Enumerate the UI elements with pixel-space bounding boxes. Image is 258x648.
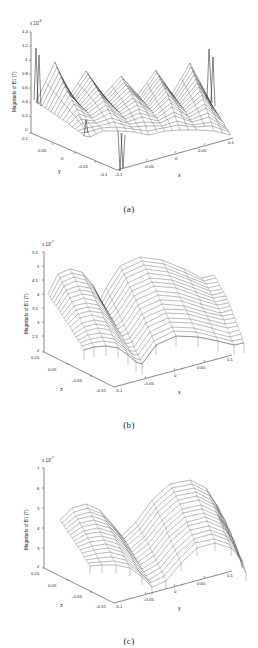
z2-tick-b-3: -0.15 <box>96 388 106 393</box>
y-tick-c-2: 0 <box>174 589 176 594</box>
z-tick-a-1: 0.2 <box>22 113 28 118</box>
z2-tick-c-0: 0.15 <box>31 571 39 576</box>
z2-tick-c-2: -0.05 <box>72 594 82 599</box>
x-tick-a-2: 0 <box>175 156 177 161</box>
z2-tick-c-1: 0.05 <box>48 583 56 588</box>
x-tick-a-0: -0.1 <box>115 172 122 177</box>
axis-multiplier-c: x 10-7 <box>42 456 54 463</box>
z-tick-b-7: 5.5 <box>32 250 38 255</box>
z-axis-name-b: z <box>60 386 63 392</box>
axis-tick-marks-c <box>42 468 205 594</box>
z2-tick-b-0: 0.15 <box>31 355 39 360</box>
y-tick-a-4: -0.1 <box>100 172 107 177</box>
mesh-lines-b-u <box>48 257 244 364</box>
axis-multiplier-a-base: x 10 <box>30 21 39 26</box>
z-axis-name-c: z <box>60 602 63 608</box>
z-tick-b-5: 4.5 <box>32 278 38 283</box>
z-tick-c-3: 5 <box>37 506 39 511</box>
y-axis-name-c: y <box>178 605 181 611</box>
mesh-lines-b-v <box>48 257 244 364</box>
z-tick-c-4: 6 <box>37 486 39 491</box>
z-tick-c-2: 4 <box>37 526 39 531</box>
mesh-lines-c-u <box>60 480 246 587</box>
x-tick-b-3: 0.05 <box>197 365 205 370</box>
panel-caption-c: (c) <box>0 636 258 646</box>
z-tick-b-3: 3.5 <box>32 306 38 311</box>
z2-tick-c-3: -0.15 <box>96 604 106 609</box>
z-tick-a-2: 0.4 <box>22 99 28 104</box>
panel-c: x 10-7 Magnitude of B1 (T) 7 6 5 4 3 2 0… <box>0 432 258 648</box>
z-tick-b-2: 3 <box>37 320 39 325</box>
y-tick-c-1: -0.05 <box>144 597 154 602</box>
x-tick-b-2: 0 <box>174 373 176 378</box>
x-axis-name-b: x <box>178 389 181 395</box>
mesh-lines-a-u <box>36 62 230 137</box>
y-tick-a-2: 0 <box>61 156 63 161</box>
mesh-lines-a-v <box>36 62 230 137</box>
z-tick-c-1: 3 <box>37 546 39 551</box>
axis-multiplier-b-exp: -7 <box>51 240 54 244</box>
y-tick-a-1: 0.05 <box>38 148 46 153</box>
panel-b: x 10-7 Magnitude of B1 (T) 5.5 5 4.5 4 3… <box>0 216 258 432</box>
z2-tick-b-1: 0.05 <box>48 367 56 372</box>
z-tick-b-0: 2 <box>37 348 39 353</box>
z-tick-a-3: 0.6 <box>22 85 28 90</box>
y-tick-a-3: -0.05 <box>78 164 88 169</box>
axis-multiplier-b-base: x 10 <box>42 242 51 247</box>
plot-a: x 10-6 Magnitude of B1 (T) 1.4 1.2 1 0.8… <box>0 0 258 190</box>
z-tick-a-0: 0 <box>25 127 27 132</box>
z2-tick-b-2: -0.05 <box>72 378 82 383</box>
x-tick-b-4: 0.1 <box>227 357 233 362</box>
y-tick-c-4: 0.1 <box>227 573 233 578</box>
panel-caption-a: (a) <box>0 204 258 214</box>
z-tick-a-6: 1.2 <box>22 43 28 48</box>
panel-a: x 10-6 Magnitude of B1 (T) 1.4 1.2 1 0.8… <box>0 0 258 216</box>
z-tick-b-1: 2.5 <box>32 334 38 339</box>
axis-multiplier-a-exp: -6 <box>39 19 42 23</box>
panel-caption-b: (b) <box>0 420 258 430</box>
y-tick-c-3: 0.05 <box>197 581 205 586</box>
z-tick-c-0: 2 <box>37 564 39 569</box>
axis-multiplier-c-base: x 10 <box>42 458 51 463</box>
axis-multiplier-a: x 10-6 <box>30 19 42 26</box>
mesh-lines-c-v <box>60 480 246 587</box>
x-tick-a-4: 0.1 <box>228 140 234 145</box>
plot-b: x 10-7 Magnitude of B1 (T) 5.5 5 4.5 4 3… <box>0 216 258 406</box>
y-tick-c-0: -0.1 <box>115 604 122 609</box>
x-tick-a-1: -0.05 <box>144 164 154 169</box>
z-tick-a-7: 1.4 <box>22 29 28 34</box>
x-axis-name-a: x <box>178 172 181 178</box>
x-tick-b-0: -0.1 <box>115 388 122 393</box>
surface-mesh-b <box>0 216 258 406</box>
x-tick-b-1: -0.05 <box>144 381 154 386</box>
axis-multiplier-c-exp: -7 <box>51 456 54 460</box>
axis-multiplier-b: x 10-7 <box>42 240 54 247</box>
figure-sheet: x 10-6 Magnitude of B1 (T) 1.4 1.2 1 0.8… <box>0 0 258 648</box>
mesh-skirt-c <box>90 543 246 595</box>
z-axis-title-b: Magnitude of B1 (T) <box>24 293 29 334</box>
plot-c: x 10-7 Magnitude of B1 (T) 7 6 5 4 3 2 0… <box>0 432 258 622</box>
z-tick-a-5: 1 <box>25 57 27 62</box>
z-axis-title-c: Magnitude of B1 (T) <box>24 509 29 550</box>
z-axis-title-a: Magnitude of B1 (T) <box>12 71 17 112</box>
z-tick-a-4: 0.8 <box>22 71 28 76</box>
y-tick-a-0: 0.1 <box>22 136 28 141</box>
z-tick-b-6: 5 <box>37 264 39 269</box>
y-axis-name-a: y <box>58 168 61 174</box>
surface-mesh-a <box>0 0 258 190</box>
z-tick-c-5: 7 <box>37 466 39 471</box>
x-tick-a-3: 0.05 <box>198 148 206 153</box>
z-tick-b-4: 4 <box>37 292 39 297</box>
